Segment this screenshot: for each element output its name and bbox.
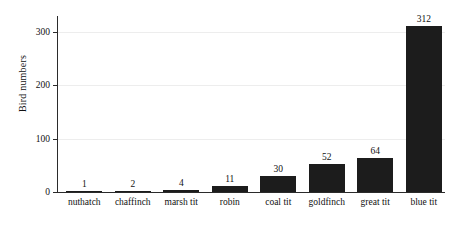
bar-slot: 52goldfinch bbox=[309, 16, 345, 193]
bar[interactable]: 1 bbox=[66, 191, 102, 193]
y-axis-title: Bird numbers bbox=[17, 24, 28, 144]
y-tick-mark bbox=[53, 192, 57, 193]
y-axis-line bbox=[57, 16, 58, 193]
bar-value-label: 52 bbox=[322, 152, 332, 162]
bar-value-label: 312 bbox=[417, 14, 431, 24]
bar[interactable]: 4 bbox=[163, 190, 199, 192]
y-tick-label: 300 bbox=[36, 27, 50, 37]
x-axis-category-label: robin bbox=[220, 197, 240, 207]
bar[interactable]: 52 bbox=[309, 164, 345, 192]
plot-area: 0100200300 1nuthatch2chaffinch4marsh tit… bbox=[57, 16, 445, 193]
bar-slot: 312blue tit bbox=[406, 16, 442, 193]
bar-value-label: 64 bbox=[371, 146, 381, 156]
bar-value-label: 4 bbox=[179, 178, 184, 188]
bar-value-label: 30 bbox=[274, 164, 284, 174]
y-tick-mark bbox=[53, 85, 57, 86]
bar[interactable]: 11 bbox=[212, 186, 248, 192]
x-axis-category-label: great tit bbox=[361, 197, 390, 207]
bar-value-label: 2 bbox=[130, 179, 135, 189]
bar-slot: 64great tit bbox=[357, 16, 393, 193]
x-axis-category-label: blue tit bbox=[410, 197, 437, 207]
x-axis-category-label: nuthatch bbox=[68, 197, 101, 207]
y-tick-mark bbox=[53, 139, 57, 140]
bar-chart: Bird numbers 0100200300 1nuthatch2chaffi… bbox=[0, 0, 459, 234]
x-axis-category-label: marsh tit bbox=[164, 197, 198, 207]
bar-slot: 30coal tit bbox=[260, 16, 296, 193]
bar-slot: 11robin bbox=[212, 16, 248, 193]
x-axis-category-label: coal tit bbox=[265, 197, 291, 207]
x-axis-category-label: chaffinch bbox=[115, 197, 151, 207]
bar[interactable]: 2 bbox=[115, 191, 151, 193]
x-axis-category-label: goldfinch bbox=[309, 197, 345, 207]
bar-slot: 1nuthatch bbox=[66, 16, 102, 193]
bar[interactable]: 30 bbox=[260, 176, 296, 192]
y-tick-label: 100 bbox=[36, 134, 50, 144]
bar-value-label: 11 bbox=[225, 174, 234, 184]
bar-slot: 2chaffinch bbox=[115, 16, 151, 193]
bar[interactable]: 312 bbox=[406, 26, 442, 192]
bar-slot: 4marsh tit bbox=[163, 16, 199, 193]
y-tick-label: 0 bbox=[45, 187, 50, 197]
bar[interactable]: 64 bbox=[357, 158, 393, 192]
y-tick-mark bbox=[53, 32, 57, 33]
y-tick-label: 200 bbox=[36, 80, 50, 90]
bar-value-label: 1 bbox=[82, 179, 87, 189]
